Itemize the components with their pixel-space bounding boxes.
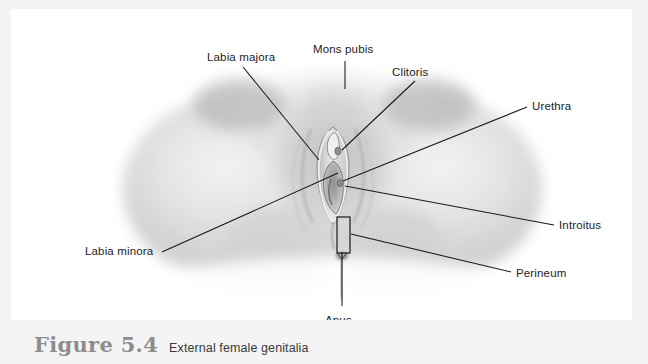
label-urethra: Urethra <box>532 100 572 112</box>
figure-number: Figure 5.4 <box>34 332 158 357</box>
urethra-group <box>337 179 343 186</box>
label-introitus: Introitus <box>559 219 601 231</box>
label-labia-majora: Labia majora <box>207 51 276 63</box>
figure-panel: Labia majora Mons pubis Clitoris Urethra… <box>11 9 632 320</box>
label-anus: Anus <box>325 314 352 320</box>
label-mons-pubis: Mons pubis <box>313 43 373 55</box>
left-groin-shadow <box>193 79 285 131</box>
urethral-meatus <box>337 179 343 186</box>
label-clitoris: Clitoris <box>392 66 428 78</box>
clitoral-glans <box>335 147 341 155</box>
label-labia-minora: Labia minora <box>85 245 154 257</box>
figure-caption-text: External female genitalia <box>169 341 308 355</box>
anatomical-illustration: Labia majora Mons pubis Clitoris Urethra… <box>11 9 632 320</box>
figure-caption: Figure 5.4 External female genitalia <box>34 332 309 357</box>
label-perineum: Perineum <box>516 267 566 279</box>
figure-page: Labia majora Mons pubis Clitoris Urethra… <box>0 0 648 364</box>
right-groin-shadow <box>383 79 475 131</box>
